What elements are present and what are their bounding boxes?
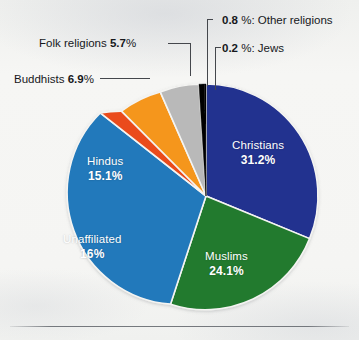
callout-jews: 0.2 %: Jews [222,42,284,54]
callout-other-religions: 0.8 %: Other religions [222,14,333,26]
callout-folk-religions-name: Folk religions [39,37,107,49]
callout-buddhists-unit: % [84,73,94,85]
callout-buddhists-percent: 6.9 [68,73,84,85]
callout-folk-religions-unit: % [126,37,136,49]
pie-chart-svg [0,0,359,340]
callout-jews-unit: %: Jews [241,42,284,54]
pie-chart: Christians 31.2% Muslims 24.1% Unaffilia… [0,0,359,340]
callout-buddhists-name: Buddhists [14,73,65,85]
callout-folk-religions: Folk religions 5.7% [39,37,136,49]
callout-jews-percent: 0.2 [222,42,238,54]
callout-folk-religions-percent: 5.7 [110,37,126,49]
bottom-divider-rule [10,326,349,327]
callout-buddhists: Buddhists 6.9% [14,73,94,85]
leader-line-folk-religions [168,43,190,76]
callout-other-religions-percent: 0.8 [222,14,238,26]
callout-other-religions-unit: %: Other religions [241,14,332,26]
